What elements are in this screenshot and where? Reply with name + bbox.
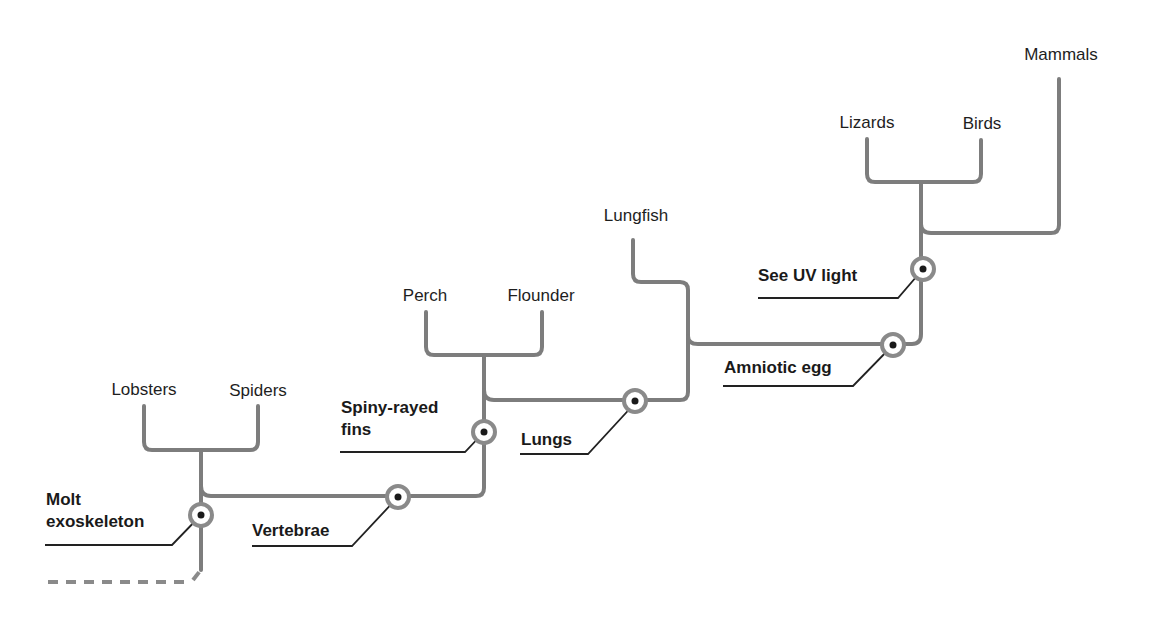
trait-spiny-line1: Spiny-rayed: [341, 397, 438, 419]
taxon-birds: Birds: [963, 114, 1002, 134]
node-amniotic-egg: [882, 334, 904, 356]
taxon-lizards: Lizards: [840, 113, 895, 133]
trait-spiny-rayed-fins: Spiny-rayed fins: [341, 397, 438, 441]
trait-molt-line1: Molt: [46, 489, 144, 511]
branch-lungs: [484, 350, 688, 400]
branch-lungfish: [633, 240, 688, 350]
trait-amniotic-egg: Amniotic egg: [724, 357, 832, 379]
node-see-uv-light: [912, 258, 934, 280]
taxon-lobsters: Lobsters: [111, 380, 176, 400]
trait-molt-exoskeleton: Molt exoskeleton: [46, 489, 144, 533]
cladogram-lines: [0, 0, 1152, 627]
branch-lizards-birds: [867, 139, 981, 182]
node-spiny-rayed-fins: [473, 421, 495, 443]
trait-lungs: Lungs: [521, 429, 572, 451]
node-lungs: [624, 390, 646, 412]
branch-mammals: [921, 79, 1059, 233]
node-vertebrae: [387, 486, 409, 508]
taxon-mammals: Mammals: [1024, 45, 1098, 65]
branch-perch-flounder: [426, 312, 542, 355]
taxon-perch: Perch: [403, 286, 447, 306]
taxon-lungfish: Lungfish: [604, 206, 668, 226]
node-molt-exoskeleton: [190, 504, 212, 526]
branch-lobsters-spiders: [144, 406, 258, 450]
branch-amniotes: [688, 182, 921, 344]
trait-spiny-line2: fins: [341, 419, 438, 441]
branch-outgroup-diagonal: [193, 571, 200, 580]
taxon-spiders: Spiders: [229, 381, 287, 401]
trait-vertebrae: Vertebrae: [252, 520, 330, 542]
taxon-flounder: Flounder: [507, 286, 574, 306]
trait-molt-line2: exoskeleton: [46, 511, 144, 533]
trait-see-uv-light: See UV light: [758, 265, 857, 287]
